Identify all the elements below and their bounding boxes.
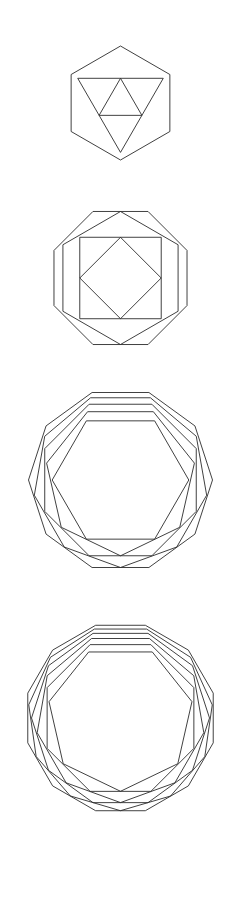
- polygon-ring-5-sides-6: [52, 421, 189, 539]
- polygon-ring-4-sides-7: [47, 412, 195, 556]
- figure-sheet: [0, 0, 241, 919]
- figure-1-hexagon-triangle-nest: [0, 40, 241, 166]
- polygon-ring-3-sides-3: [99, 78, 142, 115]
- polygon-ring-2-sides-9: [34, 398, 206, 568]
- polygon-ring-5-sides-8: [47, 645, 194, 792]
- polygon-ring-1-sides-8: [54, 211, 187, 344]
- polygon-ring-3-sides-8: [45, 404, 197, 556]
- polygon-ring-3-sides-4: [80, 237, 161, 318]
- polygon-ring-4-sides-9: [37, 639, 204, 803]
- figure-4-dodecagon-to-hexagon-nest: [0, 616, 241, 820]
- figure-3-decagon-to-pentagon-nest: [0, 382, 241, 578]
- polygon-ring-6-sides-7: [49, 652, 192, 791]
- polygon-nest-canvas: [0, 382, 241, 578]
- polygon-ring-4-sides-4: [80, 237, 161, 318]
- polygon-ring-2-sides-11: [29, 629, 213, 811]
- polygon-ring-3-sides-10: [32, 633, 210, 802]
- polygon-nest-canvas: [0, 200, 241, 356]
- figure-2-octagon-hexagon-square-diamond-nest: [0, 200, 241, 356]
- polygon-ring-1-sides-10: [29, 393, 213, 568]
- polygon-nest-canvas: [0, 616, 241, 820]
- polygon-ring-1-sides-12: [28, 625, 213, 810]
- polygon-ring-1-sides-6: [71, 46, 170, 160]
- polygon-nest-canvas: [0, 40, 241, 166]
